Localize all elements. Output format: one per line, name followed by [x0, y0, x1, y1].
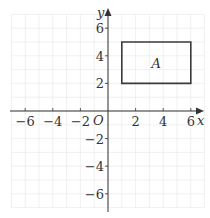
y-tick-label: 6 [96, 21, 104, 36]
x-tick-label: −2 [71, 114, 90, 129]
x-tick-label: −4 [43, 114, 62, 129]
shape-a-label: A [151, 56, 161, 71]
y-axis-arrow-icon [105, 8, 112, 16]
shapes: A [122, 42, 191, 83]
y-tick-label: 4 [96, 49, 104, 64]
origin-label: O [93, 113, 104, 128]
y-axis-label: y [96, 5, 105, 20]
coordinate-plane: −6−4−2246642−2−4−6 x y O A [0, 0, 210, 218]
x-tick-label: 2 [131, 114, 139, 129]
y-tick-label: −4 [85, 159, 104, 174]
y-tick-label: −2 [85, 132, 104, 147]
x-axis-label: x [197, 113, 205, 128]
y-tick-label: −6 [85, 187, 104, 202]
x-tick-label: 6 [187, 114, 195, 129]
y-tick-label: 2 [96, 76, 104, 91]
x-tick-label: −6 [16, 114, 35, 129]
x-tick-label: 4 [159, 114, 167, 129]
